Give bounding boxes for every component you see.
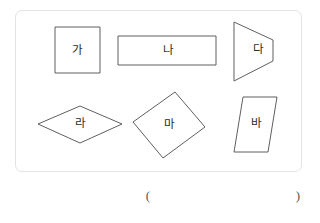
shape-label-ga: 가 [72, 45, 83, 57]
shapes-drawing [0, 0, 320, 223]
answer-close-paren: ) [296, 189, 300, 202]
shape-label-da: 다 [253, 44, 264, 56]
shape-label-na: 나 [163, 45, 174, 57]
answer-open-paren: ( [146, 189, 150, 202]
shape-classification-figure: 가 나 다 라 마 바 ( ) [0, 0, 320, 223]
shape-label-ma: 마 [164, 119, 175, 131]
shape-label-ra: 라 [75, 118, 86, 130]
shape-label-ba: 바 [251, 118, 262, 130]
